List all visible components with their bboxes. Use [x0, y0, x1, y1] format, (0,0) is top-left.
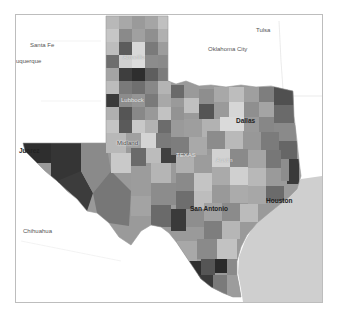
texas-county-choropleth[interactable]	[16, 15, 322, 302]
city-label-amarillo: Amarillo	[123, 54, 145, 60]
city-label-austin: Austin	[216, 157, 233, 163]
city-label-albuquerque: uquerque	[16, 58, 41, 64]
city-label-midland: Midland	[117, 140, 138, 146]
city-label-lubbock: Lubbock	[121, 97, 144, 103]
city-label-dallas: Dallas	[236, 118, 255, 125]
city-label-juarez: Juarez	[19, 148, 40, 155]
city-label-san-antonio: San Antonio	[190, 206, 228, 213]
city-label-houston: Houston	[266, 198, 292, 205]
city-label-chihuahua: Chihuahua	[23, 228, 52, 234]
city-label-santa-fe: Santa Fe	[30, 42, 54, 48]
city-label-oklahoma-city: Oklahoma City	[208, 46, 247, 52]
city-label-tulsa: Tulsa	[256, 27, 270, 33]
map-frame[interactable]: Santa Fe uquerque Oklahoma City Tulsa Am…	[15, 14, 323, 303]
state-label-texas: TEXAS	[176, 152, 196, 158]
